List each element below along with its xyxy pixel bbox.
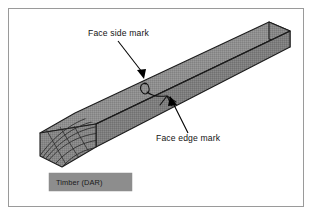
face-edge-mark-label: Face edge mark bbox=[156, 133, 221, 143]
caption-label: Timber (DAR) bbox=[56, 178, 103, 187]
face-edge-mark-leader bbox=[173, 103, 188, 133]
timber-top-face bbox=[40, 22, 290, 133]
face-side-mark-leader bbox=[118, 41, 142, 72]
timber-diagram: Face side mark Face edge mark Timber (DA… bbox=[0, 0, 314, 217]
caption-box: Timber (DAR) bbox=[49, 173, 132, 191]
figure-root: Face side mark Face edge mark Timber (DA… bbox=[0, 0, 314, 217]
timber-board bbox=[29, 22, 290, 181]
face-side-mark-arrowhead bbox=[137, 69, 146, 79]
face-side-mark-label: Face side mark bbox=[88, 28, 149, 38]
annotation-face-side-mark: Face side mark bbox=[88, 28, 149, 79]
timber-arris-line bbox=[96, 31, 290, 124]
